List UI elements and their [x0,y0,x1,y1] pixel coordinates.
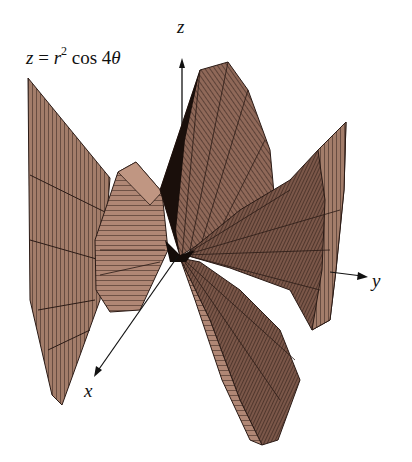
equation-theta: θ [111,47,120,68]
y-axis-label: y [372,270,380,292]
surface-plot [0,0,412,462]
z-axis-label: z [177,16,184,38]
equation-coef: 4 [102,47,112,68]
equation-exponent: 2 [61,44,67,58]
equation-func: cos [72,47,97,68]
x-axis-label: x [84,380,92,402]
equation-title: z = r2 cos 4θ [26,44,121,69]
equation-lhs: z [26,47,33,68]
surface-plot-figure: z = r2 cos 4θ z y x [0,0,412,462]
equation-r: r [54,47,61,68]
equation-equals: = [38,47,49,68]
